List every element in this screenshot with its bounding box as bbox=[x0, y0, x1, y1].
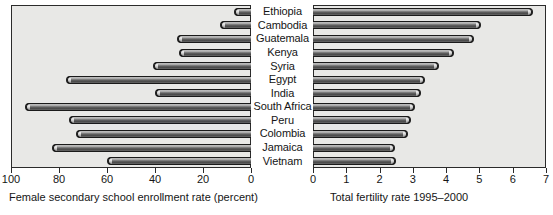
bar-row bbox=[11, 46, 251, 60]
tick-label: 40 bbox=[149, 173, 161, 186]
tick-label: 7 bbox=[543, 173, 549, 186]
category-label: Cambodia bbox=[252, 19, 313, 33]
bar-row bbox=[313, 73, 546, 87]
category-label: Peru bbox=[252, 114, 313, 128]
bar-row bbox=[11, 5, 251, 19]
tick-label: 2 bbox=[377, 173, 383, 186]
bar-row bbox=[11, 59, 251, 73]
bar-row bbox=[11, 19, 251, 33]
bar-egypt bbox=[313, 76, 425, 84]
bar-peru bbox=[313, 116, 411, 124]
tick-label: 5 bbox=[476, 173, 482, 186]
right-axis-label: Total fertility rate 1995–2000 bbox=[330, 190, 468, 204]
tick-label: 80 bbox=[53, 173, 65, 186]
category-label: Syria bbox=[252, 59, 313, 73]
bar-jamaica bbox=[52, 144, 251, 152]
right-bar-group bbox=[313, 5, 546, 168]
bar-row bbox=[11, 86, 251, 100]
bar-syria bbox=[313, 62, 439, 70]
bar-row bbox=[11, 141, 251, 155]
category-label: Vietnam bbox=[252, 154, 313, 168]
category-label: Kenya bbox=[252, 46, 313, 60]
bar-india bbox=[155, 89, 251, 97]
bar-guatemala bbox=[177, 35, 251, 43]
tick-label: 0 bbox=[248, 173, 254, 186]
bar-row bbox=[11, 154, 251, 168]
bar-row bbox=[313, 127, 546, 141]
bar-vietnam bbox=[107, 157, 251, 165]
bar-row bbox=[313, 154, 546, 168]
category-label: Colombia bbox=[252, 127, 313, 141]
tick-label: 3 bbox=[410, 173, 416, 186]
left-bar-group bbox=[11, 5, 251, 168]
tick-label: 4 bbox=[443, 173, 449, 186]
bar-cambodia bbox=[313, 21, 481, 29]
tick-label: 6 bbox=[510, 173, 516, 186]
left-axis-ticklabels: 100806040200 bbox=[11, 173, 251, 187]
right-axis-ticklabels: 01234567 bbox=[313, 173, 546, 187]
bar-india bbox=[313, 89, 421, 97]
bar-row bbox=[313, 59, 546, 73]
category-label: Egypt bbox=[252, 73, 313, 87]
bar-colombia bbox=[76, 130, 251, 138]
bar-south-africa bbox=[313, 103, 415, 111]
bar-row bbox=[313, 5, 546, 19]
tick-label: 60 bbox=[101, 173, 113, 186]
tick-label: 100 bbox=[2, 173, 20, 186]
bar-row bbox=[313, 86, 546, 100]
bar-ethiopia bbox=[234, 8, 251, 16]
bar-row bbox=[313, 114, 546, 128]
bar-colombia bbox=[313, 130, 408, 138]
bar-row bbox=[11, 100, 251, 114]
category-label: South Africa bbox=[252, 100, 313, 114]
bar-row bbox=[313, 19, 546, 33]
category-label: Ethiopia bbox=[252, 5, 313, 19]
bar-jamaica bbox=[313, 144, 395, 152]
tick-label: 0 bbox=[310, 173, 316, 186]
category-label: Jamaica bbox=[252, 141, 313, 155]
category-label-column: EthiopiaCambodiaGuatemalaKenyaSyriaEgypt… bbox=[252, 5, 313, 168]
bar-cambodia bbox=[220, 21, 251, 29]
bar-row bbox=[11, 73, 251, 87]
bar-row bbox=[313, 32, 546, 46]
bar-south-africa bbox=[25, 103, 251, 111]
bar-row bbox=[313, 100, 546, 114]
bar-syria bbox=[153, 62, 251, 70]
bar-egypt bbox=[66, 76, 251, 84]
bar-row bbox=[313, 46, 546, 60]
bar-vietnam bbox=[313, 157, 396, 165]
bar-peru bbox=[69, 116, 251, 124]
left-axis-label: Female secondary school enrollment rate … bbox=[9, 190, 258, 204]
bar-kenya bbox=[313, 49, 454, 57]
tick-label: 20 bbox=[197, 173, 209, 186]
category-label: Guatemala bbox=[252, 32, 313, 46]
bar-guatemala bbox=[313, 35, 474, 43]
category-label: India bbox=[252, 86, 313, 100]
bar-ethiopia bbox=[313, 8, 533, 16]
tick-label: 1 bbox=[343, 173, 349, 186]
paired-bar-chart-figure: 100806040200 Female secondary school enr… bbox=[0, 0, 553, 215]
bar-row bbox=[313, 141, 546, 155]
bar-row bbox=[11, 32, 251, 46]
bar-row bbox=[11, 127, 251, 141]
bar-row bbox=[11, 114, 251, 128]
bar-kenya bbox=[179, 49, 251, 57]
